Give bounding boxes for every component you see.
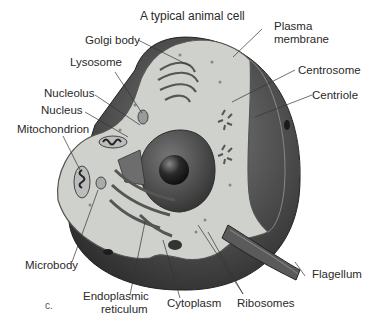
label-lysosome: Lysosome [70, 56, 122, 69]
label-ribosomes: Ribosomes [237, 297, 295, 310]
label-cytoplasm: Cytoplasm [167, 297, 221, 310]
label-centriole: Centriole [312, 89, 358, 102]
animal-cell-diagram: A typical animal cell Golgi body Plasma … [0, 0, 371, 324]
label-flagellum: Flagellum [312, 268, 362, 281]
label-plasma-membrane-2: membrane [274, 33, 329, 46]
label-centrosome: Centrosome [298, 64, 361, 77]
vesicle-shape [168, 240, 182, 250]
pore-shape [284, 120, 290, 130]
label-endoplasmic-reticulum-1: Endoplasmic [83, 290, 149, 303]
panel-letter: c. [45, 299, 53, 312]
label-mitochondrion: Mitochondrion [17, 123, 89, 136]
label-plasma-membrane-1: Plasma [274, 20, 312, 33]
label-endoplasmic-reticulum-2: reticulum [101, 303, 148, 316]
lysosome-shape [138, 110, 148, 124]
microbody-shape [96, 177, 106, 189]
diagram-title: A typical animal cell [140, 10, 245, 23]
label-golgi-body: Golgi body [85, 34, 140, 47]
label-nucleolus: Nucleolus [44, 87, 95, 100]
label-nucleus: Nucleus [41, 104, 83, 117]
label-microbody: Microbody [25, 259, 78, 272]
